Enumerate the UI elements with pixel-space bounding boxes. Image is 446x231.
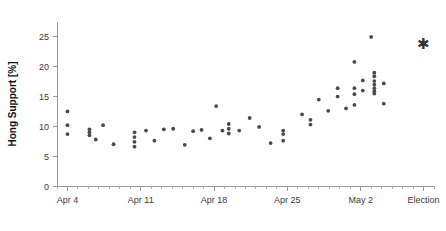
poll-data-point: [353, 60, 357, 64]
poll-data-point: [221, 129, 225, 133]
y-tick-label-25: 25: [39, 32, 49, 42]
poll-data-point: [326, 109, 330, 113]
election-marker-layer: ✱: [417, 35, 430, 52]
poll-data-point: [133, 140, 137, 144]
poll-data-point: [361, 89, 365, 93]
poll-data-point: [237, 129, 241, 133]
poll-data-point: [214, 104, 218, 108]
poll-data-point: [144, 129, 148, 133]
poll-data-point: [183, 143, 187, 147]
y-tick-label-15: 15: [39, 92, 49, 102]
poll-data-point: [353, 92, 357, 96]
poll-data-point: [208, 136, 212, 140]
poll-data-point: [112, 142, 116, 146]
poll-data-point: [344, 107, 348, 111]
data-points-layer: [66, 35, 386, 149]
scatter-chart: 0510152025 Apr 4Apr 11Apr 18Apr 25May 2E…: [0, 0, 446, 231]
poll-data-point: [300, 113, 304, 117]
poll-data-point: [133, 135, 137, 139]
poll-data-point: [353, 103, 357, 107]
poll-data-point: [372, 83, 376, 87]
poll-data-point: [227, 132, 231, 136]
y-tick-label-10: 10: [39, 122, 49, 132]
poll-data-point: [281, 139, 285, 143]
poll-data-point: [317, 98, 321, 102]
poll-data-point: [369, 35, 373, 39]
poll-data-point: [191, 129, 195, 133]
poll-data-point: [353, 86, 357, 90]
poll-data-point: [66, 123, 70, 127]
poll-data-point: [66, 132, 70, 136]
poll-data-point: [257, 125, 261, 129]
poll-data-point: [372, 79, 376, 83]
poll-data-point: [372, 92, 376, 96]
poll-data-point: [94, 138, 98, 142]
poll-data-point: [281, 132, 285, 136]
poll-data-point: [309, 123, 313, 127]
poll-data-point: [361, 79, 365, 83]
poll-data-point: [133, 145, 137, 149]
poll-data-point: [227, 122, 231, 126]
poll-data-point: [171, 127, 175, 131]
poll-data-point: [133, 130, 137, 134]
poll-data-point: [101, 123, 105, 127]
poll-data-point: [66, 110, 70, 114]
y-axis-title: Hong Support [%]: [7, 62, 18, 147]
poll-data-point: [382, 102, 386, 106]
poll-data-point: [309, 118, 313, 122]
poll-data-point: [200, 128, 204, 132]
y-axis: 0510152025: [39, 22, 57, 192]
x-tick-label-apr-11: Apr 11: [128, 195, 154, 205]
poll-data-point: [336, 95, 340, 99]
election-result-star-icon: ✱: [417, 35, 430, 52]
x-tick-label-election: Election: [408, 195, 440, 205]
poll-data-point: [281, 129, 285, 133]
poll-data-point: [227, 127, 231, 131]
poll-data-point: [162, 127, 166, 131]
poll-data-point: [382, 82, 386, 86]
chart-canvas: 0510152025 Apr 4Apr 11Apr 18Apr 25May 2E…: [0, 0, 446, 231]
poll-data-point: [248, 116, 252, 120]
x-tick-label-may-2: May 2: [348, 195, 373, 205]
poll-data-point: [88, 133, 92, 137]
poll-data-point: [152, 139, 156, 143]
x-axis: Apr 4Apr 11Apr 18Apr 25May 2Election: [57, 186, 440, 205]
y-tick-label-0: 0: [44, 182, 49, 192]
poll-data-point: [372, 71, 376, 75]
x-tick-label-apr-4: Apr 4: [57, 195, 79, 205]
y-tick-label-5: 5: [44, 152, 49, 162]
poll-data-point: [269, 141, 273, 145]
poll-data-point: [336, 86, 340, 90]
poll-data-point: [372, 74, 376, 78]
x-tick-label-apr-18: Apr 18: [201, 195, 228, 205]
y-tick-label-20: 20: [39, 62, 49, 72]
x-tick-label-apr-25: Apr 25: [274, 195, 301, 205]
